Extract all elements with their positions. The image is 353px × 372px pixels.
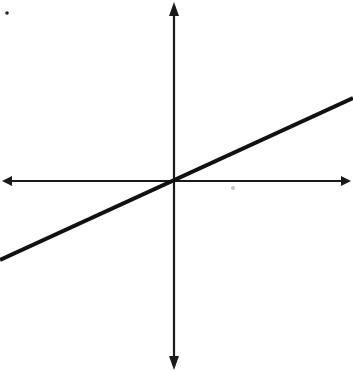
- smudge-mark: [231, 186, 235, 190]
- x-axis-left-arrow-icon: [2, 176, 12, 186]
- corner-dot: [5, 11, 9, 15]
- y-axis: [169, 2, 179, 370]
- x-axis-right-arrow-icon: [341, 176, 351, 186]
- y-axis-down-arrow-icon: [169, 356, 179, 370]
- linear-function-line: [0, 98, 353, 260]
- y-axis-up-arrow-icon: [169, 2, 179, 16]
- coordinate-plane: [0, 0, 353, 372]
